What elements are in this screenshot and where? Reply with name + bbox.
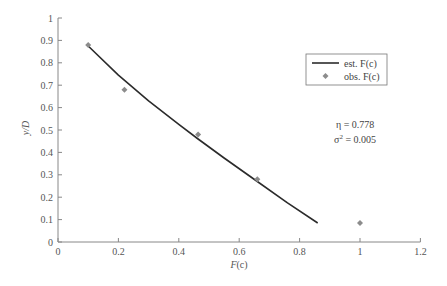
y-tick-label: 0.3 <box>41 169 54 180</box>
x-tick-label: 0.4 <box>173 246 186 257</box>
x-tick-label: 0.8 <box>293 246 306 257</box>
sigma-annotation: σ2 = 0.005 <box>334 133 376 145</box>
x-tick-label: 1.2 <box>414 246 427 257</box>
obs-point-diamond-icon <box>254 176 260 182</box>
est-line <box>88 46 318 223</box>
y-axis: 00.10.20.30.40.50.60.70.80.91 <box>41 13 63 248</box>
obs-point-diamond-icon <box>357 220 363 226</box>
y-tick-label: 0.8 <box>41 57 54 68</box>
y-tick-label: 0.2 <box>41 192 54 203</box>
y-tick-label: 1 <box>48 13 53 24</box>
x-axis: 00.20.40.60.811.2 <box>56 238 427 257</box>
y-tick-label: 0.6 <box>41 102 54 113</box>
legend-est-label: est. F(c) <box>344 58 377 70</box>
obs-point-diamond-icon <box>121 87 127 93</box>
y-tick-label: 0.4 <box>41 147 54 158</box>
x-tick-label: 0 <box>56 246 61 257</box>
stats-annotation: η = 0.778 σ2 = 0.005 <box>334 119 376 145</box>
y-axis-label: y/D <box>20 120 31 136</box>
x-tick-label: 0.2 <box>112 246 125 257</box>
y-tick-label: 0.7 <box>41 80 54 91</box>
chart: 00.10.20.30.40.50.60.70.80.91 00.20.40.6… <box>0 0 447 286</box>
x-axis-label: F(c) <box>229 259 247 271</box>
x-tick-label: 1 <box>358 246 363 257</box>
est-line-series <box>88 46 318 223</box>
legend: est. F(c) obs. F(c) <box>306 54 387 85</box>
y-tick-label: 0.1 <box>41 214 54 225</box>
eta-annotation: η = 0.778 <box>336 119 374 130</box>
y-tick-label: 0.5 <box>41 125 54 136</box>
legend-obs-label: obs. F(c) <box>344 71 380 83</box>
y-tick-label: 0.9 <box>41 35 54 46</box>
y-tick-label: 0 <box>48 237 53 248</box>
x-tick-label: 0.6 <box>233 246 246 257</box>
